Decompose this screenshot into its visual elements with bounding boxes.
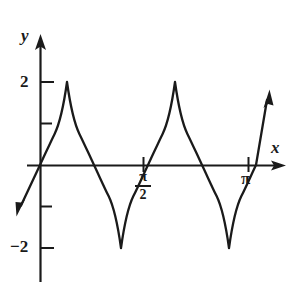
pi-over-2-denominator: 2 [135,188,151,202]
y-tick-label-2: 2 [20,73,29,90]
plot-canvas [0,0,308,282]
x-tick-label-pi-over-2: π 2 [135,170,151,202]
sine-wave-graph-figure: y x 2 −2 π π 2 [0,0,308,282]
x-axis-label: x [271,139,280,156]
curve-start-arrowhead [16,200,26,217]
x-axis-ticks [144,157,249,172]
curve-end-arrowhead [264,90,274,109]
pi-over-2-numerator: π [135,170,151,185]
y-axis-label: y [21,27,29,44]
y-tick-label-negative-2: −2 [10,238,28,255]
x-tick-label-pi: π [241,170,250,187]
